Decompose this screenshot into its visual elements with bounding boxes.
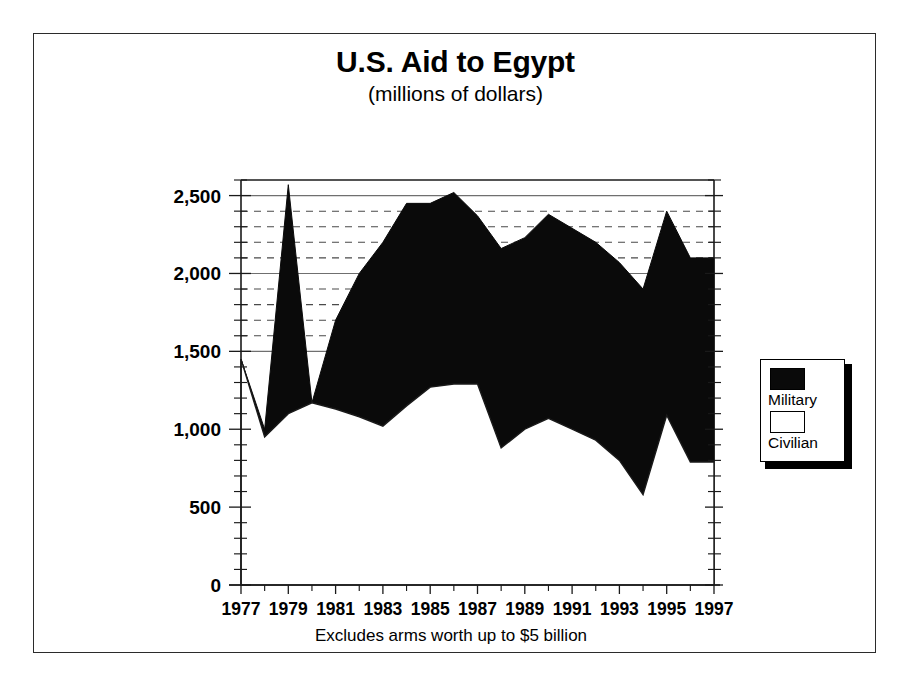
x-axis-tick-label: 1989 xyxy=(505,599,544,619)
x-axis-tick-label: 1987 xyxy=(458,599,497,619)
y-axis-tick-label: 0 xyxy=(210,575,221,596)
x-axis-tick-label: 1997 xyxy=(695,599,734,619)
x-axis-tick-label: 1985 xyxy=(411,599,450,619)
x-axis-tick-label: 1993 xyxy=(600,599,639,619)
y-axis-tick-label: 2,500 xyxy=(173,186,221,207)
y-axis-tick-label: 1,000 xyxy=(173,419,221,440)
y-axis-tick-label: 500 xyxy=(189,497,221,518)
x-axis-tick-label: 1981 xyxy=(316,599,355,619)
legend-label-civilian: Civilian xyxy=(768,434,818,452)
y-axis-tick-label: 2,000 xyxy=(173,263,221,284)
chart-footnote: Excludes arms worth up to $5 billion xyxy=(315,626,587,645)
figure-root: U.S. Aid to Egypt (millions of dollars) … xyxy=(0,0,921,696)
chart-legend: Military Civilian xyxy=(760,359,852,469)
legend-swatch-military-icon xyxy=(770,368,805,390)
x-axis-tick-labels: 1977197919811983198519871989199119931995… xyxy=(222,599,734,619)
x-axis-tick-label: 1979 xyxy=(269,599,308,619)
legend-box: Military Civilian xyxy=(760,359,845,462)
y-axis-tick-label: 1,500 xyxy=(173,341,221,362)
x-axis-tick-label: 1983 xyxy=(363,599,402,619)
x-axis-tick-label: 1991 xyxy=(553,599,592,619)
legend-label-military: Military xyxy=(768,391,817,409)
figure-frame: U.S. Aid to Egypt (millions of dollars) … xyxy=(33,33,876,653)
legend-swatch-civilian-icon xyxy=(770,411,805,433)
x-axis-tick-label: 1995 xyxy=(647,599,686,619)
y-axis-tick-labels: 05001,0001,5002,0002,500 xyxy=(173,186,221,596)
x-axis-tick-label: 1977 xyxy=(222,599,261,619)
plot-area: 05001,0001,5002,0002,500 197719791981198… xyxy=(34,34,877,654)
area-chart: 05001,0001,5002,0002,500 197719791981198… xyxy=(34,34,877,654)
